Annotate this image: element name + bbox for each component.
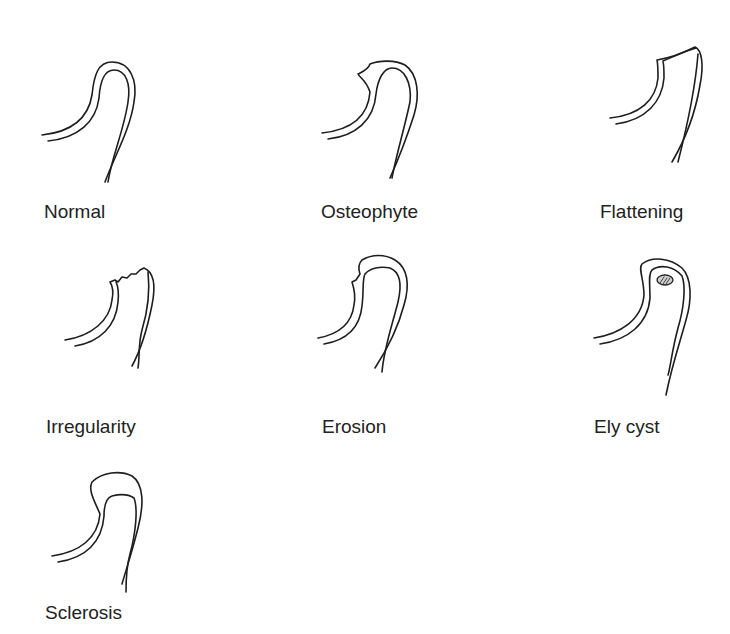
label-normal: Normal [44, 201, 105, 223]
label-flattening: Flattening [600, 201, 683, 223]
panel-flattening: Flattening [580, 30, 730, 190]
label-irregularity: Irregularity [46, 416, 136, 438]
normal-condyle-drawing [30, 60, 170, 190]
osteophyte-condyle-drawing [300, 60, 460, 190]
panel-irregularity: Irregularity [30, 250, 180, 420]
ely-cyst-condyle-drawing [580, 250, 730, 420]
panel-osteophyte: Osteophyte [300, 60, 460, 190]
panel-erosion: Erosion [300, 250, 450, 420]
erosion-condyle-drawing [300, 250, 450, 420]
panel-sclerosis: Sclerosis [30, 450, 190, 634]
panel-ely-cyst: Ely cyst [580, 250, 730, 420]
flattening-condyle-drawing [580, 30, 730, 190]
cyst-icon [657, 275, 673, 285]
irregularity-condyle-drawing [30, 250, 180, 420]
label-osteophyte: Osteophyte [321, 201, 418, 223]
label-ely-cyst: Ely cyst [594, 416, 659, 438]
panel-normal: Normal [30, 60, 170, 190]
label-sclerosis: Sclerosis [45, 602, 122, 624]
label-erosion: Erosion [322, 416, 386, 438]
